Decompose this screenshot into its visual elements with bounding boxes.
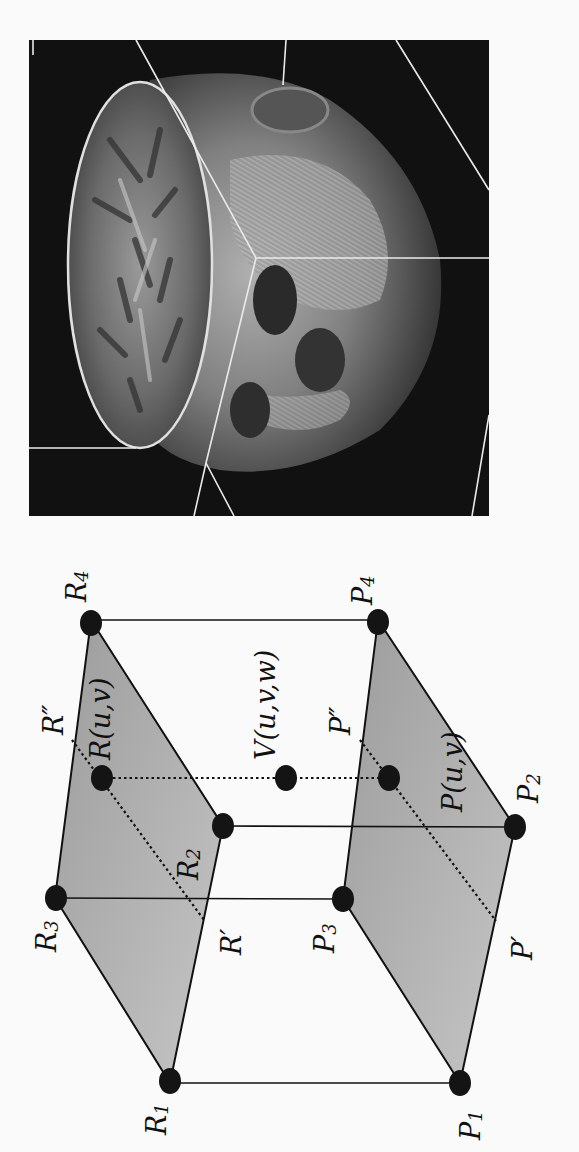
label-r1: R1: [141, 1103, 172, 1136]
vertex-r2: [212, 813, 234, 839]
label-r4: R4: [61, 570, 92, 603]
point-p-uv: [378, 765, 400, 791]
mri-orbit-1: [253, 265, 297, 335]
vertex-p3: [332, 886, 354, 912]
point-r-uv: [91, 765, 113, 791]
label-r-prime: R′: [216, 929, 247, 956]
label-p-double-prime: P″: [325, 707, 356, 736]
label-r-uv: R(u,v): [85, 677, 116, 761]
vertex-p2: [504, 814, 526, 840]
label-p3: P3: [309, 923, 340, 954]
label-p4: P4: [347, 575, 378, 606]
mri-orbit-2: [295, 328, 345, 392]
vertex-p4: [367, 609, 389, 635]
label-p-uv: P(u,v): [437, 732, 468, 813]
vertex-r4: [80, 610, 102, 636]
figure-canvas: R4 R″ R(u,v) R2 R3 R′ R1 V(u,v,w): [0, 0, 579, 1152]
label-p2: P2: [513, 773, 544, 804]
vertex-r3: [45, 885, 67, 911]
mri-panel: [29, 40, 489, 516]
vertex-p1: [449, 1070, 471, 1096]
mri-orbit-3: [230, 382, 270, 438]
label-r-double-prime: R″: [38, 705, 69, 736]
label-p-prime: P′: [507, 936, 538, 961]
plane-p: [343, 620, 515, 1083]
mri-ear: [252, 88, 328, 132]
volume-diagram: R4 R″ R(u,v) R2 R3 R′ R1 V(u,v,w): [31, 570, 544, 1141]
label-r3: R3: [31, 920, 62, 953]
point-v-uvw: [275, 765, 297, 791]
label-v-uvw: V(u,v,w): [250, 650, 281, 760]
vertex-r1: [159, 1068, 181, 1094]
mri-brain-slice: [68, 82, 212, 448]
label-p1: P1: [455, 1110, 486, 1141]
